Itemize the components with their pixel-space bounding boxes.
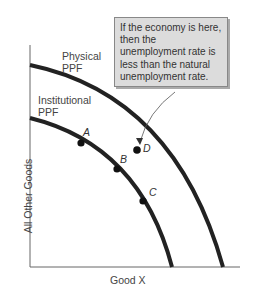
- ppf-diagram: Physical PPF Institutional PPF A B C D I…: [0, 0, 258, 297]
- point-d: [133, 146, 141, 154]
- point-a-label: A: [83, 126, 90, 138]
- callout-arrow: [140, 92, 175, 142]
- point-c-label: C: [149, 186, 157, 198]
- institutional-ppf-label: Institutional PPF: [38, 94, 91, 118]
- physical-ppf-label: Physical PPF: [62, 50, 101, 74]
- x-axis-label: Good X: [110, 274, 146, 286]
- point-c: [139, 197, 146, 204]
- arrow-head-icon: [136, 138, 143, 145]
- callout-box: If the economy is here, then the unemplo…: [114, 17, 228, 87]
- point-d-label: D: [143, 142, 151, 154]
- y-axis-label: All Other Goods: [22, 156, 34, 236]
- point-a: [77, 139, 84, 146]
- point-b-label: B: [120, 153, 127, 165]
- point-b: [113, 165, 120, 172]
